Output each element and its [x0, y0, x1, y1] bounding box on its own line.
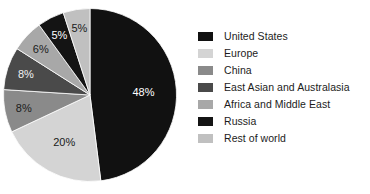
legend-item-label: Russia	[224, 116, 256, 127]
pie-chart-plot-area: 48%20%8%8%6%5%5%	[3, 8, 177, 182]
legend-color-swatch	[198, 49, 213, 58]
pie-slice-value-label: 6%	[33, 43, 49, 55]
legend-item-label: China	[224, 65, 252, 76]
legend-item[interactable]: Russia	[198, 113, 366, 130]
pie-slice-value-label: 48%	[133, 86, 155, 98]
legend-color-swatch	[198, 66, 213, 75]
legend-item-label: Africa and Middle East	[224, 99, 330, 110]
legend-color-swatch	[198, 117, 213, 126]
legend-item[interactable]: East Asian and Australasia	[198, 79, 366, 96]
legend-item-label: United States	[224, 31, 288, 42]
pie-slice-value-label: 5%	[51, 29, 67, 41]
pie-chart-figure: 48%20%8%8%6%5%5% United StatesEuropeChin…	[0, 0, 370, 194]
legend-color-swatch	[198, 32, 213, 41]
legend-item[interactable]: United States	[198, 28, 366, 45]
legend-item[interactable]: Africa and Middle East	[198, 96, 366, 113]
legend-item-label: Rest of world	[224, 133, 286, 144]
pie-chart-svg: 48%20%8%8%6%5%5%	[3, 8, 177, 182]
legend-color-swatch	[198, 134, 213, 143]
pie-slice-value-label: 8%	[18, 68, 34, 80]
legend-color-swatch	[198, 83, 213, 92]
legend-item[interactable]: China	[198, 62, 366, 79]
pie-slice-value-label: 20%	[53, 136, 75, 148]
legend-item-label: East Asian and Australasia	[224, 82, 350, 93]
legend-item-label: Europe	[224, 48, 258, 59]
legend-item[interactable]: Rest of world	[198, 130, 366, 147]
pie-slice-value-label: 8%	[16, 102, 32, 114]
pie-slice-value-label: 5%	[71, 22, 87, 34]
chart-legend: United StatesEuropeChinaEast Asian and A…	[198, 28, 366, 147]
legend-color-swatch	[198, 100, 213, 109]
legend-item[interactable]: Europe	[198, 45, 366, 62]
